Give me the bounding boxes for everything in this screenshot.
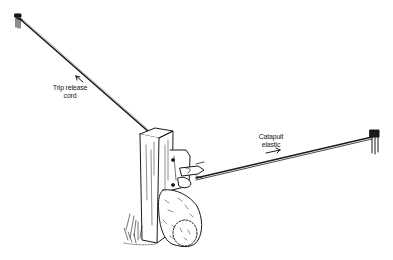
left-anchor-peg-icon <box>15 14 22 28</box>
trap-illustration <box>0 0 393 260</box>
trip-release-cord <box>20 18 151 133</box>
trip-arrow-icon <box>76 76 83 82</box>
release-mechanism <box>170 150 204 190</box>
trip-label-line2: cord <box>48 92 92 100</box>
right-anchor-peg-icon <box>370 130 379 154</box>
trip-label-line1: Trip release <box>48 84 92 92</box>
catapult-label-line2: elastic <box>251 141 291 149</box>
catapult-elastic-label: Catapult elastic <box>251 133 291 149</box>
catapult-label-line1: Catapult <box>251 133 291 141</box>
trip-release-cord-label: Trip release cord <box>48 84 92 100</box>
bundle-sack <box>158 190 201 247</box>
